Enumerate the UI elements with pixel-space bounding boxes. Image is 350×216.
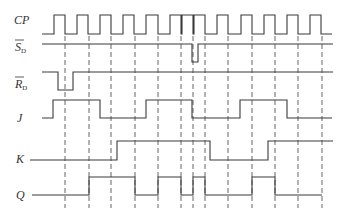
label-rd: RD — [14, 77, 27, 92]
waveform-q — [32, 177, 322, 195]
svg-text:SD: SD — [15, 40, 26, 55]
label-cp: CP — [14, 13, 30, 27]
waveform-rd — [42, 72, 333, 90]
waveform-k — [30, 141, 333, 160]
label-sd: SD — [15, 40, 26, 55]
waveforms — [30, 15, 333, 195]
label-q: Q — [16, 188, 25, 202]
waveform-sd — [42, 44, 333, 62]
label-j: J — [17, 111, 23, 125]
svg-text:RD: RD — [14, 77, 27, 92]
waveform-j — [42, 100, 332, 118]
timing-diagram: CP SD RD J K Q — [0, 0, 350, 216]
signal-labels: CP SD RD J K Q — [14, 13, 30, 202]
waveform-cp — [42, 15, 332, 34]
label-k: K — [15, 152, 25, 166]
